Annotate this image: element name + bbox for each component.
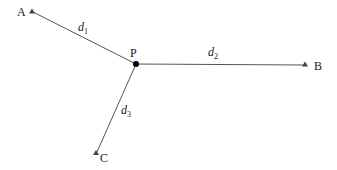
label-d3: d3 — [121, 103, 131, 119]
label-d2: d2 — [208, 45, 218, 61]
point-a-marker-icon — [29, 9, 35, 14]
edge-d1 — [33, 12, 136, 64]
label-point-a: A — [17, 5, 26, 19]
diagram-svg: A B C P d1 d2 d3 — [0, 0, 337, 170]
label-point-b: B — [314, 59, 322, 73]
edge-d3 — [97, 64, 136, 152]
center-point-p-icon — [133, 61, 139, 67]
edge-d2 — [136, 64, 304, 65]
label-point-c: C — [100, 151, 108, 165]
diagram-canvas: A B C P d1 d2 d3 — [0, 0, 337, 170]
label-point-p: P — [130, 46, 137, 60]
label-d1: d1 — [78, 20, 88, 36]
point-b-marker-icon — [302, 62, 308, 67]
